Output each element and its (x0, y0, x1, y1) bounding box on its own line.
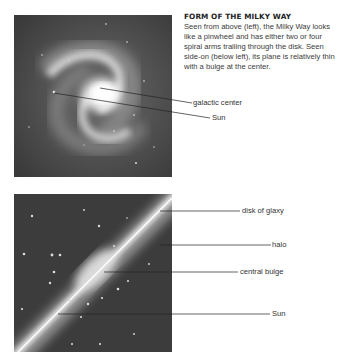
label-galactic-center: galactic center (193, 98, 242, 107)
label-halo: halo (272, 240, 286, 249)
caption-body: Seen from above (left), the Milky Way lo… (184, 22, 340, 72)
galaxy-side-view-image (14, 194, 172, 352)
label-disk: disk of glaxy (242, 206, 284, 215)
spiral-galaxy-illustration (14, 15, 172, 177)
edge-on-galaxy-illustration (14, 194, 172, 352)
caption-block: FORM OF THE MILKY WAY Seen from above (l… (184, 12, 340, 72)
galaxy-top-view-image (14, 15, 172, 177)
caption-title: FORM OF THE MILKY WAY (184, 12, 340, 22)
label-sun-side: Sun (272, 309, 286, 318)
label-central-bulge: central bulge (240, 267, 283, 276)
label-sun-top: Sun (212, 113, 226, 122)
